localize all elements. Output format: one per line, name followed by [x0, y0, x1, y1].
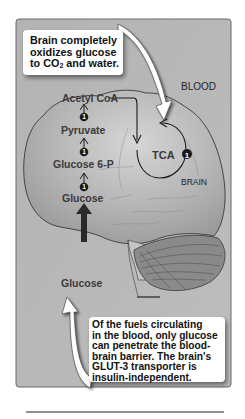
bottom-callout-line-6: insulin-independent. [92, 373, 225, 384]
step-pyruvate: Pyruvate [61, 125, 105, 136]
tca-label: TCA [152, 150, 175, 161]
top-callout-tail: and water. [63, 57, 119, 69]
blood-label: BLOOD [181, 82, 216, 92]
bottom-callout: Of the fuels circulating in the blood, o… [89, 317, 225, 382]
svg-text:1: 1 [185, 151, 190, 160]
step-glucose-brain: Glucose [62, 193, 103, 204]
svg-text:1: 1 [82, 183, 86, 190]
brain-label: BRAIN [181, 178, 207, 187]
top-callout: Brain completely oxidizes glucose to CO2… [23, 30, 123, 75]
top-callout-line-1: Brain completely [30, 35, 123, 47]
step-acetyl-coa: Acetyl CoA [62, 93, 118, 104]
top-callout-line-3: to CO2 and water. [30, 58, 123, 70]
step-glucose-6-p: Glucose 6-P [53, 159, 114, 170]
svg-text:1: 1 [82, 148, 86, 155]
bottom-callout-line-1: Of the fuels circulating [92, 320, 225, 331]
svg-text:1: 1 [82, 113, 86, 120]
glucose-blood-label: Glucose [61, 278, 102, 289]
top-callout-co: to CO [30, 57, 59, 69]
